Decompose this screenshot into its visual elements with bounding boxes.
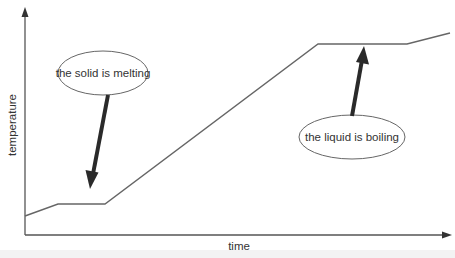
melting-arrowhead-icon xyxy=(86,170,99,189)
boiling-arrow-shaft xyxy=(352,60,362,116)
heating-curve-diagram: the solid is melting the liquid is boili… xyxy=(0,0,455,258)
boiling-label: the liquid is boiling xyxy=(305,131,399,143)
x-axis-label: time xyxy=(228,240,250,252)
boiling-arrowhead-icon xyxy=(356,46,369,65)
melting-arrow-shaft xyxy=(93,95,108,174)
x-axis-arrowhead-icon xyxy=(442,232,452,239)
y-axis-label: temperature xyxy=(6,94,18,156)
melting-label: the solid is melting xyxy=(56,67,151,79)
y-axis-arrowhead-icon xyxy=(22,7,29,17)
